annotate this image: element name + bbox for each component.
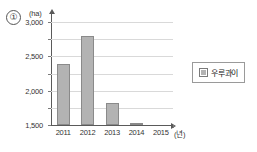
- y-axis-tick-label: 2,500: [25, 52, 43, 61]
- x-axis-tick-label: 2014: [124, 128, 148, 137]
- x-axis-labels: 20112012201320142015: [51, 128, 173, 137]
- x-axis-tick-label: 2012: [75, 128, 99, 137]
- chart-legend: 우루과이: [192, 62, 245, 83]
- plot-area: 05001,0001,5002,0002,5003,000: [51, 22, 173, 125]
- bar-2012: [81, 36, 94, 125]
- filled-square-icon: [199, 68, 208, 77]
- legend-item-label: 우루과이: [211, 67, 238, 78]
- bar-2013: [106, 103, 119, 125]
- bar-slot: [100, 22, 124, 125]
- bar-2014: [130, 123, 143, 125]
- figure-number-marker: ①: [6, 10, 21, 25]
- bar-slot: [51, 22, 75, 125]
- y-axis-tick: 0: [48, 125, 51, 126]
- bar-series: [51, 22, 173, 125]
- bar-slot: [75, 22, 99, 125]
- y-axis-tick-label: 2,000: [25, 86, 43, 95]
- bar-slot: [124, 22, 148, 125]
- y-axis-arrow-icon: [49, 9, 55, 14]
- x-axis-tick-label: 2015: [149, 128, 173, 137]
- bar-2011: [57, 64, 70, 125]
- y-axis-tick-label: 1,500: [25, 121, 43, 130]
- bar-slot: [149, 22, 173, 125]
- x-axis-tick: [173, 125, 174, 128]
- chart-figure: ① (ha) 05001,0001,5002,0002,5003,000 201…: [0, 0, 257, 152]
- y-axis-tick-label: 3,000: [25, 18, 43, 27]
- x-axis-unit-label: (년): [174, 128, 185, 139]
- x-axis-tick-label: 2013: [100, 128, 124, 137]
- x-axis-tick-label: 2011: [51, 128, 75, 137]
- gridline: [51, 125, 173, 126]
